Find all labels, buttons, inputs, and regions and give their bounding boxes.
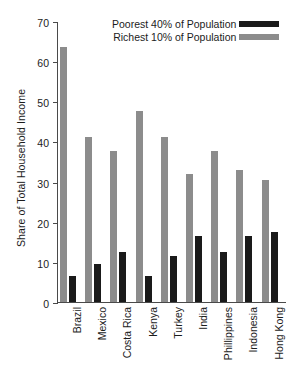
y-axis-tick: 50	[53, 102, 58, 103]
y-axis-tick-label: 10	[37, 258, 49, 270]
y-axis-tick-label: 20	[37, 218, 49, 230]
bar-richest-10-percent	[136, 111, 143, 302]
y-axis-tick-label: 0	[43, 298, 49, 310]
x-axis-label: Mexico	[96, 307, 108, 340]
y-axis-tick: 30	[53, 183, 58, 184]
bar-richest-10-percent	[236, 170, 243, 302]
bar-poorest-40-percent	[145, 276, 152, 302]
bar-richest-10-percent	[262, 180, 269, 302]
y-axis-tick: 70	[53, 22, 58, 23]
x-axis-label: Indonesia	[247, 307, 259, 353]
y-axis-tick-label: 40	[37, 137, 49, 149]
x-axis-label: Phillippines	[222, 307, 234, 360]
y-axis-tick-label: 30	[37, 178, 49, 190]
bar-poorest-40-percent	[245, 236, 252, 302]
bar-richest-10-percent	[186, 174, 193, 302]
plot-area: 010203040506070	[57, 22, 286, 303]
bar-poorest-40-percent	[170, 256, 177, 302]
income-distribution-bar-chart: Share of Total Household Income Poorest …	[0, 0, 294, 383]
bar-richest-10-percent	[60, 47, 67, 302]
y-axis-tick-label: 50	[37, 97, 49, 109]
y-axis-tick-label: 70	[37, 17, 49, 29]
bar-richest-10-percent	[110, 151, 117, 302]
bar-poorest-40-percent	[195, 236, 202, 302]
x-axis-label: Costa Rica	[121, 307, 133, 358]
bar-poorest-40-percent	[220, 252, 227, 302]
bar-poorest-40-percent	[69, 276, 76, 302]
x-axis-label: Turkey	[172, 307, 184, 339]
bar-poorest-40-percent	[119, 252, 126, 302]
bar-richest-10-percent	[211, 151, 218, 302]
y-axis-title: Share of Total Household Income	[15, 63, 27, 273]
bar-richest-10-percent	[85, 137, 92, 302]
bar-poorest-40-percent	[271, 232, 278, 302]
y-axis-tick-label: 60	[37, 57, 49, 69]
x-axis-label: India	[197, 307, 209, 330]
y-axis-tick: 10	[53, 263, 58, 264]
x-axis-label: Brazil	[71, 307, 83, 333]
bar-richest-10-percent	[161, 137, 168, 302]
y-axis-tick: 40	[53, 142, 58, 143]
x-axis-label: Hong Kong	[273, 307, 285, 360]
x-axis-label: Kenya	[147, 307, 159, 337]
y-axis-tick: 0	[53, 303, 58, 304]
bar-poorest-40-percent	[94, 264, 101, 302]
y-axis-tick: 20	[53, 223, 58, 224]
y-axis-tick: 60	[53, 62, 58, 63]
